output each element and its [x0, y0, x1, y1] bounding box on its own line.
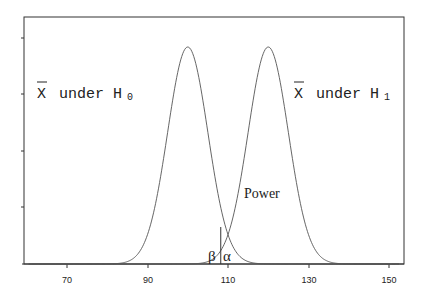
h0-distribution-curve — [29, 47, 399, 264]
x-tick-130: 130 — [301, 275, 316, 285]
svg-text:under H: under H — [316, 86, 379, 103]
plot-frame — [24, 17, 404, 264]
svg-text:under H: under H — [59, 86, 122, 103]
svg-text:X: X — [294, 86, 303, 103]
x-tick-70: 70 — [62, 275, 72, 285]
x-tick-150: 150 — [381, 275, 396, 285]
x-axis-tick-labels: 70 90 110 130 150 — [62, 275, 397, 285]
x-tick-110: 110 — [221, 275, 235, 285]
h0-label: X under H 0 — [37, 82, 133, 103]
x-tick-90: 90 — [143, 275, 153, 285]
h1-label: X under H 1 — [294, 82, 390, 103]
hypothesis-power-chart: 70 90 110 130 150 X under H 0 X under H … — [0, 0, 424, 301]
beta-annotation: β — [208, 248, 216, 264]
h1-distribution-curve — [29, 47, 399, 264]
power-annotation: Power — [244, 186, 280, 201]
svg-text:1: 1 — [384, 92, 390, 103]
alpha-annotation: α — [223, 248, 231, 264]
svg-text:0: 0 — [127, 92, 133, 103]
x-axis-ticks — [67, 264, 389, 268]
svg-text:X: X — [37, 86, 46, 103]
